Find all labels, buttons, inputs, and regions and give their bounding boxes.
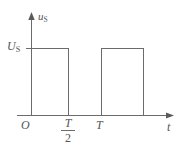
waveform-figure: uS US O T 2 T t: [0, 0, 191, 162]
y-axis-label-subscript: S: [44, 15, 48, 24]
amplitude-label-subscript: S: [16, 45, 21, 54]
half-period-tick-label: T 2: [58, 117, 78, 144]
x-axis-label: t: [167, 120, 170, 135]
y-axis-label: uS: [38, 10, 48, 24]
square-wave-trace: [32, 49, 161, 116]
period-tick-label: T: [96, 118, 103, 133]
waveform-svg: [0, 0, 191, 162]
half-period-numerator: T: [58, 117, 78, 130]
origin-label: O: [21, 118, 30, 133]
x-axis-arrowhead: [166, 112, 174, 118]
amplitude-label-symbol: U: [7, 39, 16, 53]
half-period-denominator: 2: [58, 131, 78, 144]
y-axis-arrowhead: [28, 12, 34, 20]
amplitude-label: US: [7, 39, 20, 54]
